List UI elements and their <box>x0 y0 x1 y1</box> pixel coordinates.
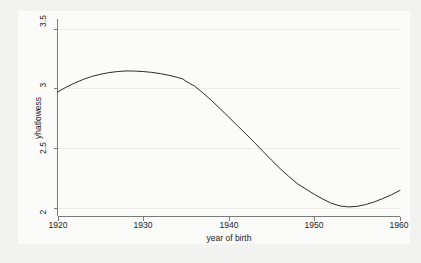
lowess-curve <box>58 71 401 207</box>
x-axis-title: year of birth <box>158 233 300 243</box>
y-axis-title: yhatlowess <box>33 78 43 158</box>
x-tick-label: 1950 <box>297 220 331 230</box>
gridlines <box>58 30 401 209</box>
y-axis-ticks <box>54 30 58 209</box>
x-tick-label: 1960 <box>382 220 416 230</box>
x-tick-label: 1930 <box>126 220 160 230</box>
y-tick-label: 3.5 <box>38 10 48 32</box>
x-tick-label: 1920 <box>41 220 75 230</box>
chart-figure: 3.5 3 2.5 2 yhatlowess 1920 1930 1940 19… <box>0 0 421 263</box>
x-tick-label: 1940 <box>212 220 246 230</box>
